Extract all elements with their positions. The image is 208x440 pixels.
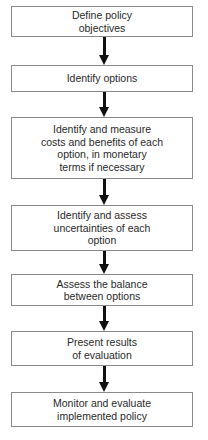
step-text-line: Identify and assess [54, 209, 151, 222]
step-text-line: Identify options [67, 72, 138, 85]
step-text-line: Present results [67, 336, 137, 349]
step-text-line: Identify and measure [41, 123, 163, 136]
step-text-line: uncertainties of each [54, 222, 151, 235]
step-text-line: terms if necessary [41, 161, 163, 174]
down-arrow-icon [101, 251, 107, 274]
step-text-line: Monitor and evaluate [53, 397, 151, 410]
step-text-line: of evaluation [67, 349, 137, 362]
step-present-results: Present results of evaluation [11, 331, 193, 366]
down-arrow-icon [101, 37, 107, 65]
step-identify-assess-uncertainties: Identify and assess uncertainties of eac… [11, 205, 193, 251]
step-text-line: objectives [72, 22, 132, 35]
down-arrow-icon [101, 306, 107, 331]
step-identify-measure-costs-benefits: Identify and measure costs and benefits … [11, 117, 193, 179]
down-arrow-icon [101, 366, 107, 392]
down-arrow-icon [101, 179, 107, 205]
step-text-line: implemented policy [53, 410, 151, 423]
step-text-line: costs and benefits of each [41, 136, 163, 149]
step-text-line: option [54, 234, 151, 247]
down-arrow-icon [101, 92, 107, 117]
step-text-line: Assess the balance [56, 278, 147, 291]
step-identify-options: Identify options [11, 65, 193, 92]
step-text-line: option, in monetary [41, 148, 163, 161]
step-text-line: Define policy [72, 9, 132, 22]
step-monitor-evaluate-policy: Monitor and evaluate implemented policy [11, 392, 193, 427]
step-define-policy-objectives: Define policy objectives [11, 6, 193, 37]
step-text-line: between options [56, 290, 147, 303]
step-assess-balance: Assess the balance between options [11, 274, 193, 306]
